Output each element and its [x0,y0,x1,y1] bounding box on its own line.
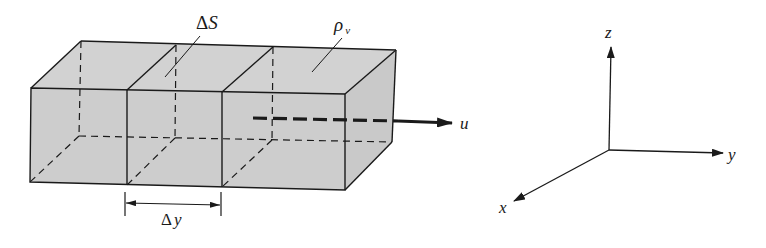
y-axis-label: y [726,145,736,164]
velocity-label: u [460,114,469,133]
y-axis [609,150,723,153]
z-axis [609,47,611,150]
x-axis-label: x [498,198,507,217]
charge-slab-diagram: ΔS ρv u Δy z y x [0,0,766,248]
z-axis-label: z [604,23,612,42]
figure-canvas: ΔS ρv u Δy z y x [0,0,766,248]
delta-s-label: ΔS [196,12,218,33]
coordinate-axes: z y x [498,23,736,217]
rho-v-label: ρv [333,14,350,36]
delta-y-label: Δy [161,210,182,229]
slab-front-face [30,88,345,190]
x-axis [514,150,609,201]
slab-box [30,36,396,190]
